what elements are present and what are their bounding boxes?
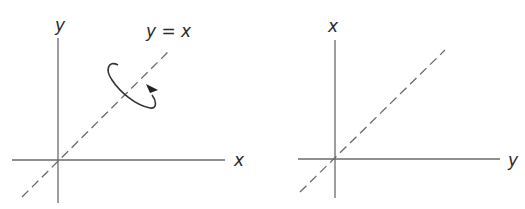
right-diagonal-line [300,50,445,192]
left-panel: y x y = x [12,15,245,203]
right-panel: x y [298,16,519,198]
line-equation-label: y = x [145,21,192,41]
left-diagonal-line [22,50,170,197]
right-y-label: y [507,150,519,170]
reflection-diagram: y x y = x x y [0,0,525,209]
right-x-label: x [327,16,339,36]
left-y-label: y [54,15,66,35]
left-x-label: x [233,150,245,170]
